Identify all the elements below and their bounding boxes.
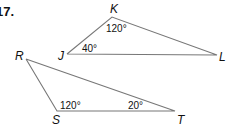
vertex-label-k: K — [110, 2, 119, 16]
triangle-jkl: K J L 120° 40° — [57, 2, 226, 64]
vertex-label-t: T — [177, 113, 186, 125]
diagram: 17. K J L 120° 40° R S T 120° 20° — [0, 0, 227, 125]
triangle-rst: R S T 120° 20° — [15, 49, 186, 125]
angle-k-label: 120° — [106, 23, 127, 34]
vertex-label-s: S — [52, 113, 60, 125]
vertex-label-l: L — [219, 50, 226, 64]
vertex-label-j: J — [57, 49, 65, 63]
angle-j-label: 40° — [82, 43, 97, 54]
problem-number: 17. — [0, 4, 14, 19]
angle-t-label: 20° — [128, 100, 143, 111]
triangle-rst-edges — [26, 59, 175, 111]
vertex-label-r: R — [15, 49, 24, 63]
angle-s-label: 120° — [60, 100, 81, 111]
